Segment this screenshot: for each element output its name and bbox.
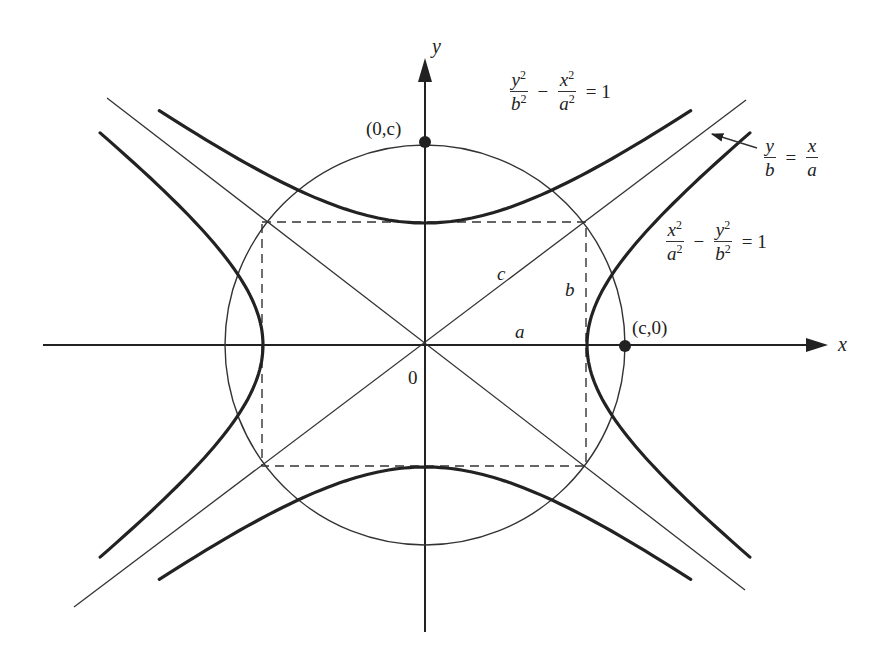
point-c-0-label: (c,0) [632,318,667,337]
asymptote-positive [74,100,746,607]
hyperbola-diagram [0,0,886,670]
segment-b-label: b [565,280,575,299]
x-axis [43,338,828,352]
equation-horizontal-hyperbola: x2 a2 − y2 b2 = 1 [662,220,773,264]
y-axis-arrow-icon [418,58,432,82]
equation-vertical-hyperbola: y2 b2 − x2 a2 = 1 [506,70,617,114]
point-c-0 [619,340,631,352]
x-axis-label: x [838,334,847,354]
segment-c-label: c [497,264,505,283]
segment-a-label: a [515,322,525,341]
x-axis-arrow-icon [806,338,828,352]
origin-label: 0 [408,368,418,387]
point-0-c-label: (0,c) [366,119,401,138]
point-0-c [419,136,431,148]
y-axis-label: y [432,36,441,56]
equation-asymptote: y b = x a [760,136,822,180]
